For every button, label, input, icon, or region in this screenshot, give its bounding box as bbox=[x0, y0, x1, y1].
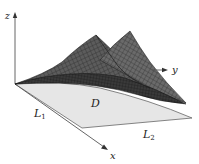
line-l2-letter: L bbox=[142, 128, 150, 141]
line-l1-subscript: 1 bbox=[41, 113, 45, 121]
region-d-label: D bbox=[90, 97, 100, 110]
z-axis bbox=[13, 12, 17, 84]
line-l2-label: L2 bbox=[142, 128, 155, 142]
surface-plot-figure: z y x D L1 L2 bbox=[0, 0, 199, 164]
y-axis-label: y bbox=[171, 64, 178, 75]
x-axis-label: x bbox=[110, 150, 116, 161]
line-l1-letter: L bbox=[33, 107, 41, 120]
line-l2-subscript: 2 bbox=[150, 134, 154, 142]
line-l1-label: L1 bbox=[33, 107, 46, 121]
z-axis-label: z bbox=[4, 11, 10, 21]
